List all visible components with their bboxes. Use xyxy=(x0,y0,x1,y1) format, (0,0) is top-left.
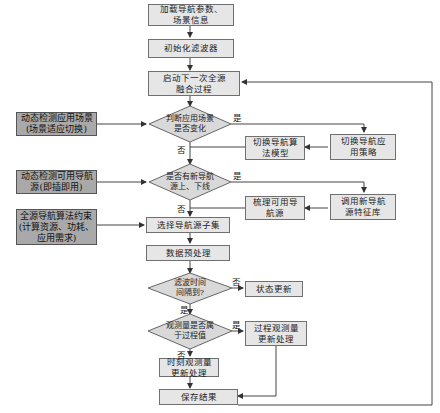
load-params-box: 加载导航参数、 场景信息 xyxy=(148,4,234,26)
edge-label-source-no: 否 xyxy=(177,202,186,214)
decision-filter-interval-label: 滤波时间 间隔到? xyxy=(162,277,218,299)
save-result-box: 保存结果 xyxy=(159,389,238,405)
edge-label-filter-yes: 是 xyxy=(180,303,189,315)
ext-scene-detect-box: 动态检测应用场景 (场景适应切换) xyxy=(16,112,97,136)
process-update-box: 过程观测量 更新处理 xyxy=(245,321,307,346)
preprocess-box: 数据预处理 xyxy=(146,245,230,261)
switch-model-box: 切换导航算 法模型 xyxy=(245,136,305,160)
ext-source-detect-box: 动态检测可用导航 源(即插即用) xyxy=(16,170,97,194)
decision-new-source-label: 是否有新导航 源上、下线 xyxy=(160,171,220,193)
edge-label-source-yes: 是 xyxy=(233,169,242,181)
ext-constraint-box: 全源导航算法约束 (计算资源、功耗、 应用需求) xyxy=(16,209,97,245)
moment-update-box: 时刻观测量 更新处理 xyxy=(159,358,219,377)
init-filter-box: 初始化滤波器 xyxy=(148,39,234,58)
decision-scene-label: 判断应用场景 是否变化 xyxy=(160,113,220,135)
sort-sources-box: 梳理可用导 航源 xyxy=(245,196,305,220)
decision-process-value-label: 观测量是否属 于过程值 xyxy=(158,320,222,342)
select-subset-box: 选择导航源子集 xyxy=(146,217,230,233)
call-library-box: 调用新导航 源特征库 xyxy=(330,194,396,220)
edge-label-filter-no: 否 xyxy=(232,275,241,287)
edge-label-scene-no: 否 xyxy=(177,143,186,155)
switch-strategy-box: 切换导航应 用策略 xyxy=(330,134,396,160)
state-update-box: 状态更新 xyxy=(245,281,303,297)
edge-label-process-no: 否 xyxy=(177,348,186,360)
edge-label-scene-yes: 是 xyxy=(233,111,242,123)
edge-label-process-yes: 是 xyxy=(232,318,241,330)
start-fusion-box: 启动下一次全源 融合过程 xyxy=(148,71,240,96)
